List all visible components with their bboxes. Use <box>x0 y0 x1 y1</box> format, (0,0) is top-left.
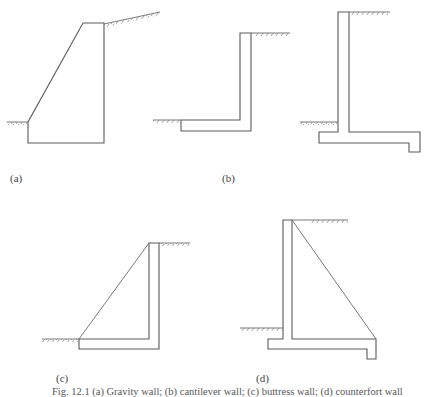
counterfort-wall-diagram <box>240 220 376 359</box>
label-d: (d) <box>256 372 269 384</box>
front-ground-hatch <box>240 328 282 331</box>
buttress-diagonal <box>79 243 149 339</box>
counterfort-diagonal <box>292 220 376 339</box>
buttress-wall-diagram <box>42 243 190 349</box>
backfill-ground-hatch <box>253 33 290 36</box>
cantilever-t-wall-diagram <box>300 12 420 152</box>
cantilever-l-wall-diagram <box>153 33 290 131</box>
t-wall-body <box>319 12 420 152</box>
label-c: (c) <box>56 372 68 384</box>
l-wall-body <box>181 33 251 131</box>
backfill-ground-hatch <box>310 220 348 223</box>
retaining-walls-figure <box>0 0 430 397</box>
front-ground-hatch <box>300 122 337 125</box>
toe-ground-hatch <box>7 122 27 125</box>
backfill-ground-hatch <box>351 12 388 15</box>
figure-caption: Fig. 12.1 (a) Gravity wall; (b) cantilev… <box>52 386 403 397</box>
gravity-wall-diagram <box>7 12 160 143</box>
gravity-wall-body <box>28 23 104 143</box>
sloping-backfill-line <box>104 12 160 24</box>
front-ground-hatch <box>42 339 78 342</box>
label-a: (a) <box>10 172 22 184</box>
buttress-wall-body <box>79 243 159 349</box>
sloping-backfill-hatch <box>106 12 160 27</box>
front-ground-hatch <box>153 120 180 123</box>
label-b: (b) <box>222 172 235 184</box>
counterfort-wall-body <box>268 220 376 359</box>
backfill-ground-hatch <box>161 243 190 246</box>
